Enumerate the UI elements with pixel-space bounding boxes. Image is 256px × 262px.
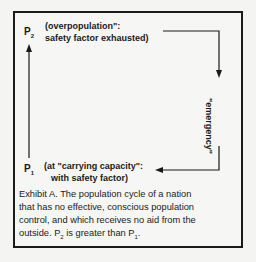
- p1-line2: with safety factor): [51, 173, 128, 184]
- p2-line2: safety factor exhausted): [45, 33, 149, 44]
- p1-line1: (at "carrying capacity":: [44, 161, 143, 172]
- exhibit-caption: Exhibit A. The population cycle of a nat…: [19, 188, 241, 244]
- emergency-label: "emergency": [204, 98, 214, 154]
- p2-label: P2: [24, 26, 34, 39]
- p1-label: P1: [24, 163, 34, 176]
- p2-line1: (overpopulation":: [45, 21, 120, 32]
